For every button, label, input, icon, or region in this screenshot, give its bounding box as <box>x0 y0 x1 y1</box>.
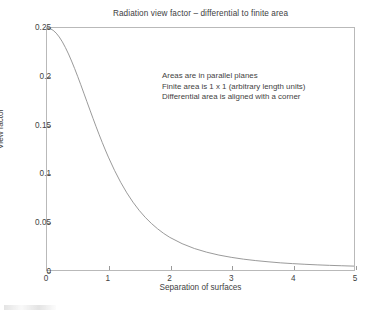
x-tick-mark <box>356 266 357 270</box>
x-tick-mark <box>109 266 110 270</box>
x-tick-label: 2 <box>167 274 172 283</box>
annotation-line: Areas are in parallel planes <box>162 71 305 82</box>
x-tick-label: 0 <box>44 274 49 283</box>
y-tick-label: 0.05 <box>35 218 51 227</box>
annotation-line: Finite area is 1 x 1 (arbitrary length u… <box>162 82 305 93</box>
annotation-block: Areas are in parallel planesFinite area … <box>162 71 305 103</box>
x-tick-label: 1 <box>106 274 111 283</box>
y-tick-label: 0.25 <box>35 23 51 32</box>
annotation-line: Differential area is aligned with a corn… <box>162 92 305 103</box>
x-tick-label: 3 <box>229 274 234 283</box>
figure: Radiation view factor – differential to … <box>0 0 370 317</box>
x-tick-label: 5 <box>353 274 358 283</box>
y-tick-label: 0.2 <box>40 71 51 80</box>
y-axis-label: View factor <box>0 109 5 149</box>
y-tick-label: 0.1 <box>40 169 51 178</box>
x-tick-mark <box>232 266 233 270</box>
x-axis-label: Separation of surfaces <box>46 283 355 292</box>
plot-area <box>46 27 355 271</box>
scan-artifact <box>4 305 56 310</box>
x-tick-label: 4 <box>291 274 296 283</box>
chart-title: Radiation view factor – differential to … <box>46 9 355 18</box>
x-tick-mark <box>294 266 295 270</box>
y-tick-label: 0.15 <box>35 120 51 129</box>
x-tick-mark <box>171 266 172 270</box>
view-factor-curve <box>47 28 354 270</box>
